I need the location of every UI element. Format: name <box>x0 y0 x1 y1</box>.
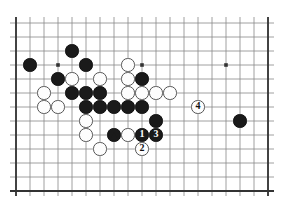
white-stone[interactable] <box>93 142 106 155</box>
black-stone[interactable] <box>79 86 92 99</box>
white-stone-move-2[interactable]: 2 <box>135 142 148 155</box>
black-stone[interactable] <box>79 100 92 113</box>
white-stone[interactable] <box>79 128 92 141</box>
white-stone[interactable] <box>121 58 134 71</box>
black-stone[interactable] <box>233 114 246 127</box>
white-stone[interactable] <box>149 86 162 99</box>
go-diagram-container: 4132 <box>0 0 282 210</box>
move-number-label: 1 <box>139 129 144 139</box>
white-stone[interactable] <box>51 100 64 113</box>
black-stone[interactable] <box>93 100 106 113</box>
white-stone[interactable] <box>121 128 134 141</box>
black-stone[interactable] <box>51 72 64 85</box>
black-stone[interactable] <box>23 58 36 71</box>
white-stone[interactable] <box>121 72 134 85</box>
black-stone-move-1[interactable]: 1 <box>135 128 148 141</box>
white-stone[interactable] <box>135 86 148 99</box>
white-stone[interactable] <box>163 86 176 99</box>
black-stone-triangle-marker[interactable] <box>107 128 120 141</box>
white-stone[interactable] <box>37 86 50 99</box>
black-stone[interactable] <box>93 86 106 99</box>
black-stone[interactable] <box>135 100 148 113</box>
black-stone[interactable] <box>107 100 120 113</box>
white-stone[interactable] <box>65 72 78 85</box>
black-stone[interactable] <box>65 86 78 99</box>
black-stone[interactable] <box>121 100 134 113</box>
black-stone[interactable] <box>135 72 148 85</box>
black-stone[interactable] <box>79 58 92 71</box>
black-stone-move-3[interactable]: 3 <box>149 128 162 141</box>
white-stone[interactable] <box>37 100 50 113</box>
triangle-icon <box>111 132 117 138</box>
white-stone[interactable] <box>79 114 92 127</box>
move-number-label: 4 <box>195 101 200 111</box>
move-number-label: 3 <box>153 129 158 139</box>
white-stone-move-4[interactable]: 4 <box>191 100 204 113</box>
black-stone[interactable] <box>65 44 78 57</box>
white-stone[interactable] <box>121 86 134 99</box>
move-number-label: 2 <box>139 143 144 153</box>
white-stone[interactable] <box>93 72 106 85</box>
black-stone[interactable] <box>149 114 162 127</box>
